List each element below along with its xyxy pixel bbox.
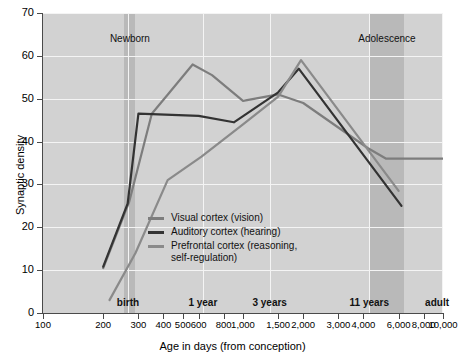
- stage-label-1-year: 1 year: [168, 297, 238, 308]
- legend-item: Auditory cortex (hearing): [148, 226, 297, 238]
- y-axis-line: [42, 13, 43, 314]
- y-tick: [37, 56, 42, 57]
- series-lines: [43, 13, 443, 313]
- x-tick-label: 4,000: [343, 320, 383, 330]
- y-tick: [37, 99, 42, 100]
- y-tick: [37, 142, 42, 143]
- y-tick: [37, 13, 42, 14]
- band-label-adolescence: Adolescence: [332, 33, 442, 44]
- x-axis-title: Age in days (from conception): [0, 340, 465, 352]
- legend-swatch: [148, 231, 164, 234]
- stage-label-adult: adult: [379, 297, 449, 308]
- stage-label-3-years: 3 years: [235, 297, 305, 308]
- y-tick-label: 70: [4, 7, 34, 18]
- plot-area: [43, 13, 443, 313]
- x-tick-label: 100: [23, 320, 63, 330]
- x-tick-label: 200: [83, 320, 123, 330]
- y-tick-label: 0: [4, 307, 34, 318]
- band-label-newborn: Newborn: [75, 33, 185, 44]
- x-tick-label: 10,000: [423, 320, 463, 330]
- x-tick-label: 1,000: [223, 320, 263, 330]
- legend-label: Auditory cortex (hearing): [171, 226, 281, 238]
- y-tick: [37, 313, 42, 314]
- legend-swatch: [148, 245, 164, 248]
- legend-label: Visual cortex (vision): [171, 212, 263, 224]
- y-tick: [37, 270, 42, 271]
- legend-label: Prefrontal cortex (reasoning, self-regul…: [171, 240, 297, 264]
- chart-legend: Visual cortex (vision)Auditory cortex (h…: [148, 212, 297, 266]
- y-tick-label: 20: [4, 221, 34, 232]
- y-tick-label: 50: [4, 93, 34, 104]
- synaptic-density-chart: 010203040506070 1002003004005006008001,0…: [0, 0, 465, 358]
- stage-label-birth: birth: [93, 297, 163, 308]
- y-tick-label: 60: [4, 50, 34, 61]
- legend-item: Visual cortex (vision): [148, 212, 297, 224]
- y-tick: [37, 227, 42, 228]
- y-tick-label: 10: [4, 264, 34, 275]
- y-axis-title: Synaptic density: [14, 135, 26, 215]
- legend-item: Prefrontal cortex (reasoning, self-regul…: [148, 240, 297, 264]
- y-tick: [37, 184, 42, 185]
- x-tick-label: 2,000: [283, 320, 323, 330]
- legend-swatch: [148, 217, 164, 220]
